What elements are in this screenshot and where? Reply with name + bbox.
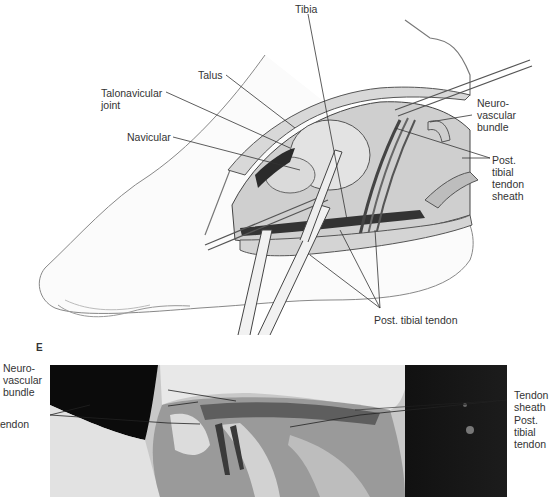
photo-label-post-tibial-tendon: Post. tibial tendon (514, 414, 546, 450)
photo-label-neurovascular-bundle: Neuro- vascular bundle (3, 362, 42, 398)
label-tibia: Tibia (295, 3, 317, 15)
panel-letter: E (36, 342, 43, 353)
foot-surgery-illustration (0, 0, 558, 340)
photo-label-tendon-sheath: Tendon sheath (514, 389, 548, 413)
label-talonavicular-joint: Talonavicular joint (101, 87, 162, 111)
intraoperative-photo (50, 365, 507, 497)
label-navicular: Navicular (127, 131, 171, 143)
label-neurovascular-bundle: Neuro- vascular bundle (477, 97, 516, 133)
label-post-tibial-tendon-sheath: Post. tibial tendon sheath (492, 154, 524, 202)
label-post-tibial-tendon: Post. tibial tendon (374, 314, 457, 326)
label-talus: Talus (198, 69, 223, 81)
photo-label-tendon: tendon (0, 418, 29, 430)
